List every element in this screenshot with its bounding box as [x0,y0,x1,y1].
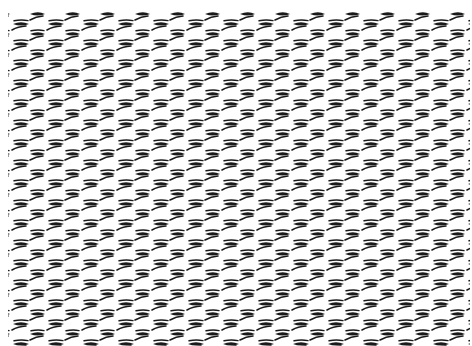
texture-pattern [0,0,472,346]
pattern-area [8,12,470,346]
